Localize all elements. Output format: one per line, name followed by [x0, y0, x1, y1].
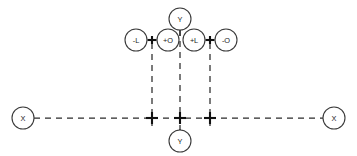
node-plus-l[interactable]: +L	[183, 29, 205, 51]
network-diagram: Y -L +O +L -O X X Y	[0, 0, 357, 156]
node-x-right[interactable]: X	[323, 107, 345, 129]
node-minus-o[interactable]: -O	[215, 29, 237, 51]
junction-upper-left	[148, 36, 156, 44]
node-label: X	[332, 114, 337, 123]
node-minus-l[interactable]: -L	[125, 29, 147, 51]
node-label: -O	[222, 36, 230, 45]
junction-bus-left	[146, 112, 158, 124]
node-label: Y	[178, 15, 183, 24]
node-x-left[interactable]: X	[12, 107, 34, 129]
node-label: -L	[133, 36, 139, 45]
node-label: +L	[190, 36, 198, 45]
junctions-group	[146, 36, 216, 124]
diagram-canvas: Y -L +O +L -O X X Y	[0, 0, 357, 156]
node-plus-o[interactable]: +O	[157, 29, 179, 51]
junction-bus-center	[174, 112, 186, 124]
node-y-top[interactable]: Y	[169, 8, 191, 30]
node-label: +O	[163, 36, 173, 45]
junction-upper-right	[206, 36, 214, 44]
node-label: Y	[178, 137, 183, 146]
node-y-bottom[interactable]: Y	[169, 130, 191, 152]
junction-bus-right	[204, 112, 216, 124]
node-label: X	[21, 114, 26, 123]
